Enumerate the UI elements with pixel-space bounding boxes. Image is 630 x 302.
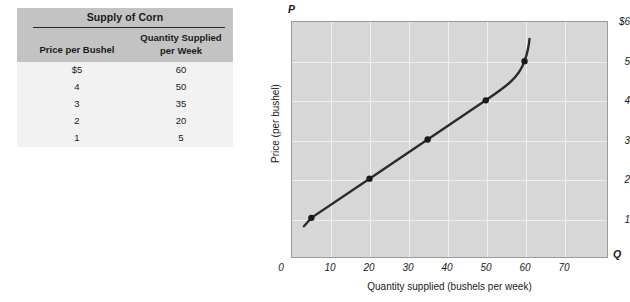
y-axis-title: Price (per bushel) (270, 54, 281, 194)
x-tick-label: 70 (547, 262, 581, 273)
column-header-quantity: Quantity Supplied per Week (133, 32, 229, 57)
cell-quantity: 5 (133, 132, 229, 143)
x-axis-title: Quantity supplied (bushels per week) (291, 281, 608, 292)
supply-curve-svg (292, 22, 607, 257)
x-tick-label: 30 (391, 262, 425, 273)
cell-price: 4 (23, 81, 131, 92)
x-tick-label: 60 (508, 262, 542, 273)
supply-curve-chart: P Q Price (per bushel) Quantity supplied… (248, 0, 630, 302)
cell-price: $5 (23, 64, 131, 75)
table-row: 2 20 (17, 113, 233, 130)
table-row: 3 35 (17, 96, 233, 113)
cell-price: 3 (23, 98, 131, 109)
table-title: Supply of Corn (17, 11, 233, 23)
x-tick-label: 0 (264, 262, 298, 273)
cell-quantity: 60 (133, 64, 229, 75)
x-tick-label: 40 (430, 262, 464, 273)
plot-area (291, 21, 608, 258)
cell-quantity: 35 (133, 98, 229, 109)
table-row: 1 5 (17, 130, 233, 147)
data-point (521, 58, 527, 64)
cell-price: 1 (23, 132, 131, 143)
supply-of-corn-table: Supply of Corn Price per Bushel Quantity… (17, 8, 233, 147)
table-row: 4 50 (17, 79, 233, 96)
supply-curve-path (304, 39, 530, 226)
x-tick-label: 10 (313, 262, 347, 273)
data-point (366, 175, 372, 181)
x-axis-symbol: Q (613, 248, 621, 260)
column-header-quantity-line1: Quantity Supplied (133, 32, 229, 45)
x-tick-label: 20 (352, 262, 386, 273)
column-header-quantity-line2: per Week (133, 45, 229, 58)
data-point (308, 215, 314, 221)
data-point (483, 97, 489, 103)
cell-price: 2 (23, 115, 131, 126)
x-tick-label: 50 (469, 262, 503, 273)
table-row: $5 60 (17, 62, 233, 79)
table-body: $5 60 4 50 3 35 2 20 1 5 (17, 62, 233, 147)
table-title-divider (33, 27, 225, 28)
column-header-price: Price per Bushel (23, 44, 131, 55)
cell-quantity: 20 (133, 115, 229, 126)
y-axis-symbol: P (288, 3, 295, 15)
cell-quantity: 50 (133, 81, 229, 92)
table-header: Supply of Corn Price per Bushel Quantity… (17, 8, 233, 62)
data-point (424, 136, 430, 142)
